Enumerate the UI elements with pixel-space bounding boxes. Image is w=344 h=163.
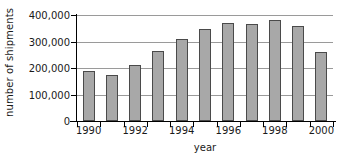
x-axis-title: year xyxy=(77,142,333,153)
x-axis-tick-mark xyxy=(77,122,78,127)
x-axis-tick-mark xyxy=(263,122,264,127)
bar xyxy=(222,23,234,121)
bar xyxy=(83,71,95,121)
bar xyxy=(199,29,211,121)
x-axis-tick-mark xyxy=(240,122,241,127)
bar xyxy=(176,39,188,121)
y-axis-tick-mark xyxy=(71,95,77,96)
x-axis-tick-label: 1992 xyxy=(122,125,147,136)
y-axis-tick-label: 200,000 xyxy=(29,63,70,74)
bar xyxy=(292,26,304,121)
x-axis-tick-label: 2000 xyxy=(309,125,334,136)
y-axis-tick-label: 300,000 xyxy=(29,36,70,47)
bar xyxy=(106,75,118,121)
x-axis-tick-mark xyxy=(124,122,125,127)
x-axis-tick-mark xyxy=(100,122,101,127)
bars-layer xyxy=(77,15,333,121)
bar xyxy=(315,52,327,121)
x-axis-tick-mark xyxy=(286,122,287,127)
x-axis-tick-label: 1990 xyxy=(76,125,101,136)
x-axis-tick-label: 1994 xyxy=(169,125,194,136)
bar xyxy=(129,65,141,121)
gridline xyxy=(77,121,333,122)
x-axis-tick-label-group: 199019921994199619982000 xyxy=(0,125,344,141)
x-axis-tick-mark xyxy=(310,122,311,127)
x-axis-tick-label: 1996 xyxy=(216,125,241,136)
bar-chart-figure: number of shipments 0100,000200,000300,0… xyxy=(0,0,344,163)
x-axis-tick-mark xyxy=(333,122,334,127)
x-axis-tick-mark xyxy=(193,122,194,127)
bar xyxy=(269,20,281,121)
y-axis-title-text: number of shipments xyxy=(4,8,15,117)
y-axis-tick-mark xyxy=(71,42,77,43)
y-axis-tick-mark xyxy=(71,15,77,16)
y-axis-tick-mark xyxy=(71,68,77,69)
x-axis-tick-label: 1998 xyxy=(262,125,287,136)
bar xyxy=(246,24,258,121)
y-axis-tick-label: 100,000 xyxy=(29,89,70,100)
bar xyxy=(152,51,164,121)
x-axis-tick-mark xyxy=(170,122,171,127)
x-axis-tick-mark xyxy=(217,122,218,127)
y-axis-tick-label: 400,000 xyxy=(29,10,70,21)
x-axis-tick-mark xyxy=(147,122,148,127)
